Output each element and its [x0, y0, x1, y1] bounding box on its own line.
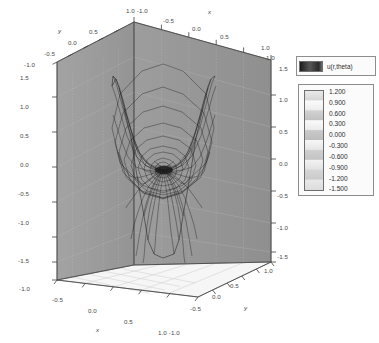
tick-z-left-0_5: 0.5 — [20, 133, 29, 139]
axis-title-y-top: y — [58, 28, 61, 34]
tick-x-top-1_0: 1.0 — [261, 45, 270, 51]
legend-label: u(r,theta) — [327, 63, 353, 70]
tick-z-right--0_5: -0.5 — [277, 193, 288, 199]
axis-title-x-bottom: x — [96, 327, 99, 333]
tick-x-right-top-1_0: 1.0 — [266, 55, 275, 61]
colorbar-value: -0.300 — [329, 143, 373, 150]
tick-z-right-0_5: 0.5 — [279, 129, 288, 135]
tick-x-top-0_5: 0.5 — [220, 34, 229, 40]
axis-ticks-z-left — [52, 97, 57, 280]
tick-z-right--1_5: -1.5 — [277, 254, 288, 260]
tick-z-right-0_0: 0.0 — [279, 161, 288, 167]
legend[interactable]: u(r,theta) — [296, 56, 376, 76]
tick-y-bottom-0_0: 0.0 — [212, 294, 221, 300]
tick-x-top--0_5: -0.5 — [163, 18, 174, 24]
tick-y-bottom--0_5: -0.5 — [190, 306, 201, 312]
axis-title-y-bottom: y — [244, 305, 247, 311]
tick-x-bottom-0_0: 0.0 — [88, 308, 97, 314]
tick-z-left--1_5: -1.5 — [18, 258, 29, 264]
tick-x-top-0_0: 0.0 — [192, 26, 201, 32]
tick-x-top-corner: 1.0 -1.0 — [126, 8, 148, 14]
tick-x-bottom--1_0: -1.0 — [19, 286, 30, 292]
tick-y-right-1_0: 1.0 — [264, 268, 273, 274]
tick-z-left-1_5: 1.5 — [20, 75, 29, 81]
tick-y-top--0_5: -0.5 — [44, 51, 55, 57]
tick-y-bottom-0_5: 0.5 — [230, 283, 239, 289]
tick-z-left-1_0: 1.0 — [20, 104, 29, 110]
colorbar-value: 0.300 — [329, 121, 373, 128]
tick-x-bottom-corner: 1.0 -1.0 — [158, 330, 180, 336]
tick-z-right--1_0: -1.0 — [277, 225, 288, 231]
colorbar-value: -1.200 — [329, 176, 373, 183]
colorbar-value: -0.600 — [329, 154, 373, 161]
tick-x-bottom--0_5: -0.5 — [52, 297, 63, 303]
tick-z-left-0_0: 0.0 — [20, 162, 29, 168]
tick-z-left--0_5: -0.5 — [18, 191, 29, 197]
axis-title-x-top: x — [208, 9, 211, 15]
colorbar[interactable]: 1.200 0.900 0.600 0.300 0.000 -0.300 -0.… — [298, 84, 374, 196]
colorbar-value: 0.000 — [329, 132, 373, 139]
colorbar-value: -1.500 — [329, 186, 373, 193]
tick-y-top-0_5: 0.5 — [89, 29, 98, 35]
tick-z-left--1_0: -1.0 — [18, 220, 29, 226]
wall-left — [57, 22, 134, 280]
colorbar-value: 1.200 — [329, 89, 373, 96]
tick-y-top-0_0: 0.0 — [68, 40, 77, 46]
tick-x-bottom-0_5: 0.5 — [124, 319, 133, 325]
surface-color-swatch-icon — [299, 61, 323, 72]
colorbar-value: 0.600 — [329, 111, 373, 118]
wall-right — [134, 22, 271, 265]
colorbar-gradient-icon — [304, 90, 324, 191]
colorbar-tick-labels: 1.200 0.900 0.600 0.300 0.000 -0.300 -0.… — [329, 89, 373, 193]
tick-z-right-1_0: 1.0 — [279, 97, 288, 103]
tick-y-top--1_0: -1.0 — [24, 62, 35, 68]
tick-z-right-1_5: 1.5 — [279, 66, 288, 72]
surface-plot-figure: 1.0 -1.0 -0.5 0.0 0.5 1.0 x 0.5 0.0 -0.5… — [0, 0, 379, 343]
colorbar-value: -0.900 — [329, 165, 373, 172]
colorbar-value: 0.900 — [329, 100, 373, 107]
axis-ticks-z-right — [271, 95, 276, 262]
